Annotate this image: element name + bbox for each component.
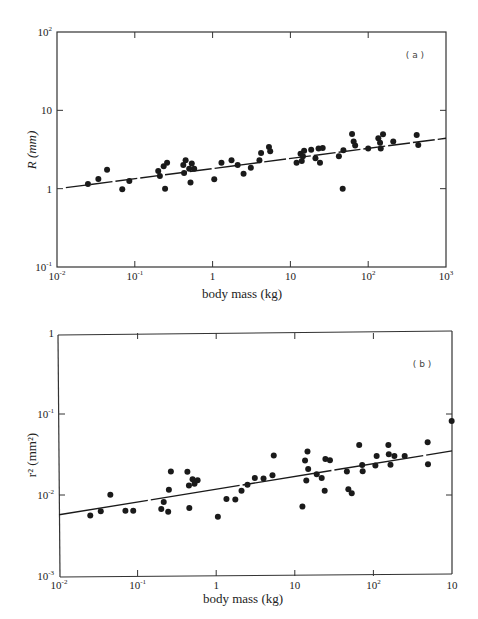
data-point bbox=[415, 142, 421, 148]
data-point bbox=[314, 471, 320, 477]
data-point bbox=[158, 506, 164, 512]
data-point bbox=[294, 160, 300, 166]
data-point bbox=[267, 148, 273, 154]
data-point bbox=[107, 492, 113, 498]
data-point bbox=[256, 157, 262, 163]
x-tick-label: 10 bbox=[289, 579, 301, 591]
x-axis-title-a: body mass (kg) bbox=[202, 286, 282, 301]
data-point bbox=[157, 173, 163, 179]
data-point bbox=[104, 167, 110, 173]
data-point bbox=[188, 179, 194, 185]
data-point bbox=[391, 453, 397, 459]
x-tick-label: 10 bbox=[285, 270, 297, 282]
regression-line-a bbox=[66, 138, 446, 187]
data-point bbox=[211, 176, 217, 182]
x-tick-label: 10-2 bbox=[49, 269, 66, 282]
data-point bbox=[215, 514, 221, 520]
data-point bbox=[414, 132, 420, 138]
data-point bbox=[349, 131, 355, 137]
data-point bbox=[374, 453, 380, 459]
data-point bbox=[340, 147, 346, 153]
data-point bbox=[320, 145, 326, 151]
data-point bbox=[119, 186, 125, 192]
data-point bbox=[425, 461, 431, 467]
x-tick-label: 10-2 bbox=[51, 578, 68, 591]
data-point bbox=[380, 131, 386, 137]
data-point bbox=[359, 462, 365, 468]
data-point bbox=[271, 453, 277, 459]
data-point bbox=[186, 483, 192, 489]
data-point bbox=[352, 143, 358, 149]
data-point bbox=[308, 147, 314, 153]
data-point bbox=[377, 140, 383, 146]
y-axis-title-b: r² (mm²) bbox=[24, 433, 39, 477]
x-tick-label: 10-1 bbox=[126, 269, 143, 282]
x-tick-label: 10 bbox=[447, 579, 459, 591]
data-point bbox=[85, 181, 91, 187]
data-point bbox=[164, 160, 170, 166]
data-points-a bbox=[85, 131, 421, 192]
data-point bbox=[87, 512, 93, 518]
x-tick-label: 102 bbox=[361, 269, 376, 282]
x-tick-label: 1 bbox=[210, 270, 216, 282]
y-tick-label: 102 bbox=[38, 25, 53, 38]
x-tick-label: 10-1 bbox=[129, 578, 146, 591]
y-axis-title-a: R (mm) bbox=[24, 131, 39, 171]
x-tick-label: 102 bbox=[366, 578, 381, 591]
data-point bbox=[302, 457, 308, 463]
panel-label-a: ( a ) bbox=[406, 50, 424, 60]
data-point bbox=[161, 499, 167, 505]
data-point bbox=[186, 505, 192, 511]
data-point bbox=[300, 153, 306, 159]
data-point bbox=[229, 157, 235, 163]
data-point bbox=[189, 160, 195, 166]
data-point bbox=[385, 442, 391, 448]
data-point bbox=[340, 186, 346, 192]
plot-frame-b-top bbox=[58, 331, 452, 335]
x-axis-title-b: body mass (kg) bbox=[203, 591, 283, 606]
data-point bbox=[261, 475, 267, 481]
data-point bbox=[269, 472, 275, 478]
y-axis-ticks-a bbox=[57, 110, 446, 188]
y-tick-label: 10 bbox=[41, 104, 53, 116]
data-point bbox=[183, 157, 189, 163]
plot-frame-b-bottom bbox=[60, 574, 452, 577]
data-point bbox=[248, 165, 254, 171]
data-point bbox=[322, 488, 328, 494]
y-tick-label: 1 bbox=[47, 183, 53, 195]
data-point bbox=[303, 478, 309, 484]
x-axis-ticks-b bbox=[138, 333, 374, 576]
data-point bbox=[360, 468, 366, 474]
data-point bbox=[218, 160, 224, 166]
data-point bbox=[356, 442, 362, 448]
data-point bbox=[305, 466, 311, 472]
data-point bbox=[365, 146, 371, 152]
data-point bbox=[252, 475, 258, 481]
data-point bbox=[130, 508, 136, 514]
data-point bbox=[312, 155, 318, 161]
y-tick-labels-b: 10-310-210-11 bbox=[37, 327, 54, 582]
data-point bbox=[241, 171, 247, 177]
data-point bbox=[319, 475, 325, 481]
data-point bbox=[98, 508, 104, 514]
data-point bbox=[317, 160, 323, 166]
data-point bbox=[336, 153, 342, 159]
x-tick-label: 1 bbox=[213, 579, 219, 591]
panel-label-b: ( b ) bbox=[413, 359, 431, 369]
data-point bbox=[223, 496, 229, 502]
x-tick-labels-a: 10-210-1110102103 bbox=[49, 269, 454, 282]
data-point bbox=[95, 176, 101, 182]
data-points-b bbox=[87, 418, 454, 520]
data-point bbox=[235, 162, 241, 168]
data-point bbox=[327, 457, 333, 463]
data-point bbox=[372, 463, 378, 469]
data-point bbox=[195, 477, 201, 483]
x-axis-ticks-a bbox=[135, 32, 368, 267]
data-point bbox=[425, 439, 431, 445]
data-point bbox=[387, 462, 393, 468]
data-point bbox=[299, 504, 305, 510]
y-tick-label: 10-2 bbox=[37, 488, 54, 501]
data-point bbox=[232, 496, 238, 502]
figure: 10-210-1110102103 10-1110102 ( a ) body … bbox=[0, 0, 478, 619]
data-point bbox=[239, 488, 245, 494]
